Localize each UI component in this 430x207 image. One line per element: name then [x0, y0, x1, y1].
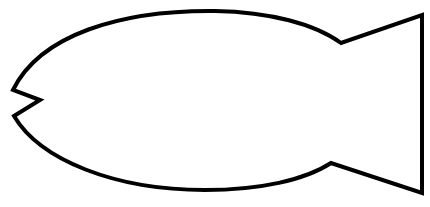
fish-body-outline	[13, 11, 422, 193]
fish-drawing: Simple black outline drawing of a fish w…	[0, 0, 430, 207]
fish-outline-icon	[0, 0, 430, 207]
